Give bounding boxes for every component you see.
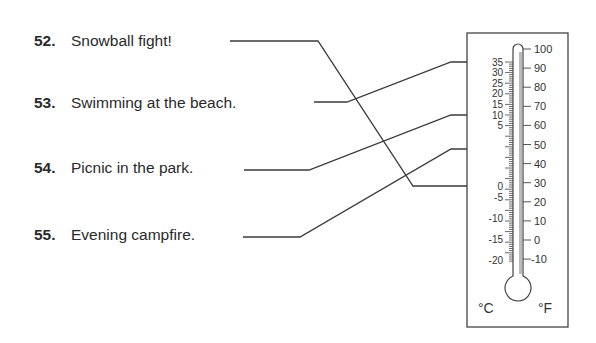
celsius-label: -5 [494,192,503,203]
celsius-label: 35 [492,57,504,68]
celsius-label: 15 [492,99,504,110]
connector-55 [243,149,478,237]
fahrenheit-label: 20 [534,196,546,208]
celsius-label: -15 [489,234,504,245]
fahrenheit-label: 50 [534,139,546,151]
fahrenheit-unit-label: °F [538,300,552,316]
celsius-label: -20 [489,255,504,266]
celsius-label: 0 [497,181,503,192]
celsius-unit-label: °C [478,300,494,316]
celsius-label: 25 [492,78,504,89]
fahrenheit-label: 80 [534,81,546,93]
fahrenheit-label: 0 [534,234,540,246]
connector-54 [244,115,478,170]
fahrenheit-label: 100 [534,43,552,55]
celsius-label: 30 [492,67,504,78]
thermometer-strip [519,52,522,274]
diagram-canvas: 35 30 25 20 15 10 5 0 -5 -10 -15 -20 100… [0,0,596,343]
fahrenheit-label: -10 [531,253,547,265]
fahrenheit-label: 70 [534,100,546,112]
connector-52 [230,41,478,186]
fahrenheit-label: 30 [534,177,546,189]
fahrenheit-label: 40 [534,158,546,170]
fahrenheit-label: 90 [534,62,546,74]
connector-53 [314,62,478,102]
celsius-label: 10 [492,110,504,121]
celsius-label: -10 [489,213,504,224]
fahrenheit-label: 10 [534,215,546,227]
celsius-label: 5 [497,120,503,131]
celsius-label: 20 [492,88,504,99]
fahrenheit-label: 60 [534,119,546,131]
